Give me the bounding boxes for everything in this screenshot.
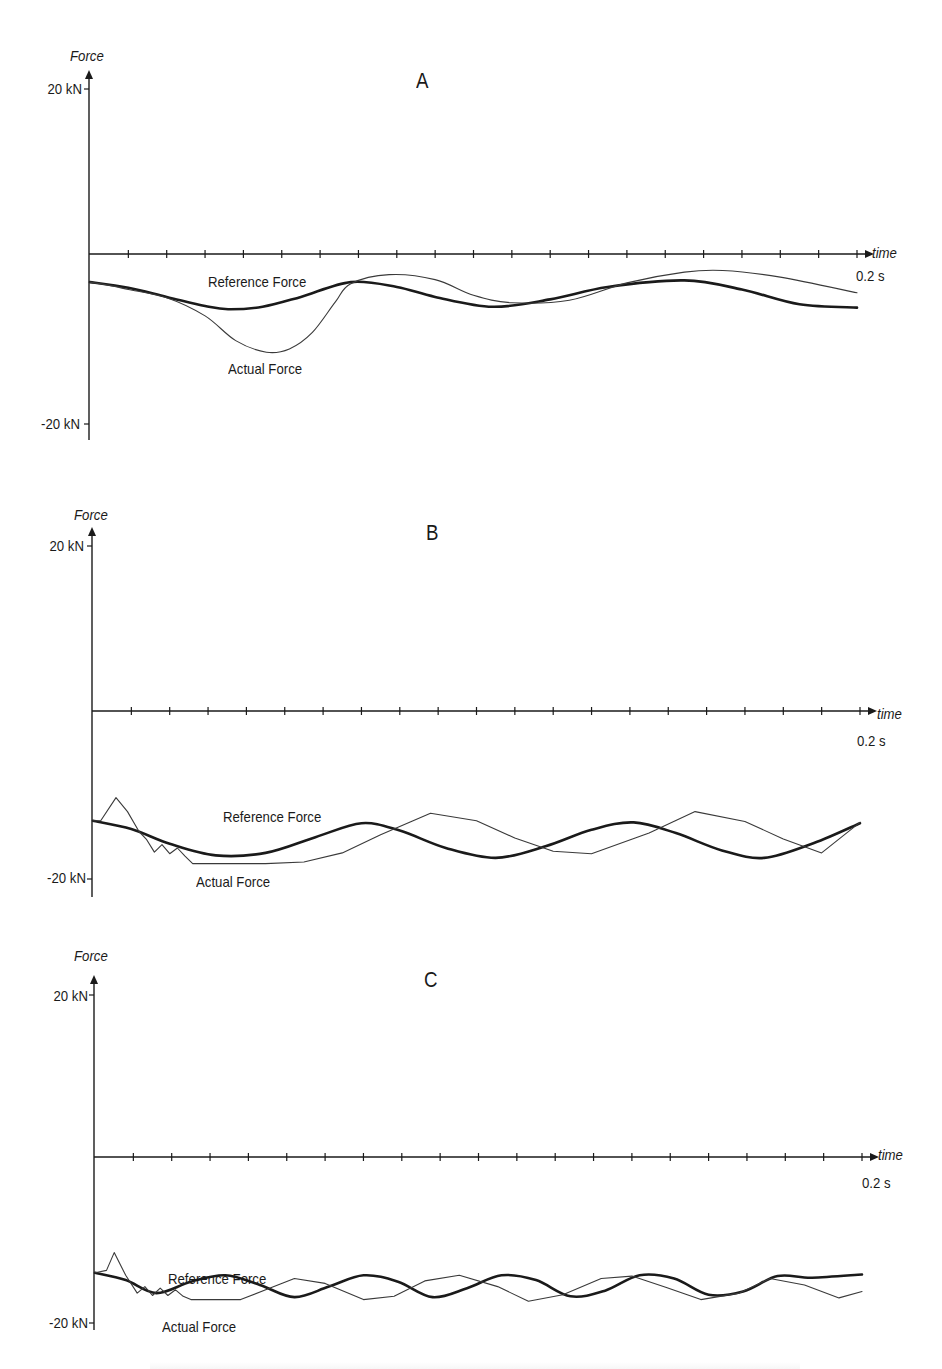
y-tick-label-top: 20 kN — [20, 80, 82, 97]
reference-force-label: Reference Force — [208, 273, 306, 290]
y-axis-title: Force — [74, 947, 108, 964]
y-tick-label-bottom: -20 kN — [24, 869, 86, 886]
actual-force-line — [90, 270, 857, 353]
x-axis-title: time — [877, 705, 902, 722]
x-axis-end-label: 0.2 s — [862, 1174, 891, 1191]
x-axis-title: time — [878, 1146, 903, 1163]
panel-title: B — [426, 520, 438, 546]
reference-force-line — [95, 1273, 862, 1297]
x-axis-title: time — [872, 244, 897, 261]
actual-force-line — [93, 798, 860, 864]
actual-force-line — [95, 1253, 862, 1302]
actual-force-label: Actual Force — [196, 873, 270, 890]
y-tick-label-top: 20 kN — [26, 987, 88, 1004]
reference-force-label: Reference Force — [168, 1270, 266, 1287]
chart-a-plot — [0, 0, 942, 460]
panel-title: C — [424, 967, 438, 993]
figure-caption-cropped — [150, 1362, 800, 1369]
y-tick-label-bottom: -20 kN — [18, 415, 80, 432]
y-axis-arrow-icon — [88, 527, 96, 536]
panel-title: A — [416, 68, 428, 94]
x-axis-arrow-icon — [870, 1153, 879, 1161]
reference-force-line — [93, 821, 860, 858]
reference-force-label: Reference Force — [223, 808, 321, 825]
x-axis-end-label: 0.2 s — [856, 267, 885, 284]
y-tick-label-bottom: -20 kN — [26, 1314, 88, 1331]
y-axis-arrow-icon — [85, 70, 93, 79]
y-tick-label-top: 20 kN — [22, 537, 84, 554]
x-axis-end-label: 0.2 s — [857, 732, 886, 749]
y-axis-title: Force — [70, 47, 104, 64]
actual-force-label: Actual Force — [162, 1318, 236, 1335]
actual-force-label: Actual Force — [228, 360, 302, 377]
x-axis-arrow-icon — [868, 707, 877, 715]
chart-panel-a: Force 20 kN -20 kN A time 0.2 s Referenc… — [0, 0, 942, 460]
y-axis-arrow-icon — [90, 975, 98, 984]
y-axis-title: Force — [74, 506, 108, 523]
